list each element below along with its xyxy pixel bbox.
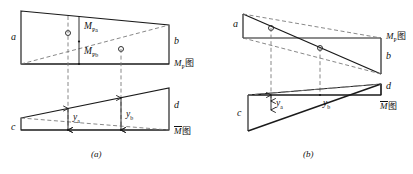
panel-a-mbar-node-b: [120, 129, 122, 131]
panel-a-ordinate-mpa-subscript: Pa: [92, 27, 98, 33]
panel-a-mp-left-edge-label: a: [11, 32, 16, 42]
panel-a-ordinate-mpb-symbol: M: [84, 46, 92, 56]
panel-a-mbar-chart-cjk: 图: [182, 126, 191, 136]
panel-a-mp-divider-base-node: [78, 63, 80, 65]
figure-canvas: [0, 0, 413, 174]
panel-a-mbar-decomposition-line: [21, 118, 169, 130]
panel-a-ordinate-mpa-symbol: M: [84, 21, 92, 31]
panel-b-caption: (b): [303, 150, 314, 159]
panel-a-mp-divider-node: [78, 40, 80, 42]
panel-b-mbar-chart-label: M图: [380, 101, 397, 111]
panel-a-mbar-node-a: [67, 129, 69, 131]
panel-a-mbar-right-edge-label: d: [174, 100, 179, 110]
panel-a-mp-chart-symbol: M: [174, 58, 182, 68]
panel-a-ordinate-yb-subscript: b: [130, 115, 133, 121]
panel-a-mbar-left-edge-label: c: [11, 122, 15, 132]
panel-a-ordinate-mpb-label: MPb: [84, 47, 98, 59]
panel-b-ordinate-yb-subscript: b: [327, 104, 330, 110]
panel-b-mp-decomposition-line-1: [243, 14, 381, 38]
figure-root: a b MPa MPb MP图 c d ya yb M图 (a) a b MP图…: [0, 0, 413, 174]
panel-a-mp-chart-cjk: 图: [185, 58, 194, 68]
panel-a-ordinate-yb-label: yb: [126, 110, 133, 122]
panel-a-ordinate-ya-label: ya: [73, 113, 80, 125]
panel-b-mp-left-edge-label: a: [233, 19, 238, 29]
panel-b-mp-right-edge-label: b: [386, 51, 391, 61]
panel-b-mbar-chart-cjk: 图: [388, 101, 397, 111]
panel-b-mbar-chart-symbol: M: [380, 101, 388, 111]
panel-b-ordinate-yb-label: yb: [323, 99, 330, 111]
panel-a-mbar-shape: [21, 88, 169, 131]
panel-b-mbar-decomposition-line: [248, 84, 381, 95]
panel-a-mbar-chart-symbol: M: [174, 126, 182, 136]
panel-b-mp-shape: [243, 14, 381, 74]
panel-a-ordinate-ya-subscript: a: [77, 118, 80, 124]
panel-a-ordinate-mpa-label: MPa: [84, 22, 98, 34]
panel-b-ordinate-ya-subscript: a: [280, 104, 283, 110]
panel-a-mp-chart-label: MP图: [174, 59, 194, 70]
panel-b-mbar-node-b: [319, 94, 321, 96]
panel-a-caption: (a): [91, 150, 102, 159]
panel-b-mp-chart-cjk: 图: [397, 31, 406, 41]
panel-b-ordinate-ya-label: ya: [276, 99, 283, 111]
panel-a-mbar-chart-label: M图: [174, 126, 191, 136]
panel-b-mp-chart-label: MP图: [386, 32, 406, 43]
panel-b-mbar-shape: [248, 84, 381, 131]
panel-a-mp-right-edge-label: b: [174, 36, 179, 46]
panel-b-group: [243, 14, 381, 131]
panel-b-mp-slope-line: [243, 14, 381, 74]
panel-b-mbar-right-edge-label: d: [386, 81, 391, 91]
panel-b-mbar-slope-line: [248, 84, 381, 131]
panel-b-mp-chart-symbol: M: [386, 31, 394, 41]
panel-a-ordinate-mpb-subscript: Pb: [92, 52, 98, 58]
panel-b-mbar-left-edge-label: c: [237, 108, 241, 118]
